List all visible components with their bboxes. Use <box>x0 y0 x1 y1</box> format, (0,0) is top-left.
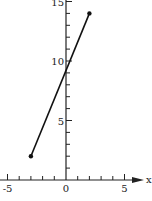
y-tick-label: 5 <box>58 116 64 127</box>
endpoint-dot <box>87 11 91 15</box>
tick-labels: -50551015x <box>3 0 152 194</box>
y-tick-label: 10 <box>51 56 64 67</box>
x-axis-arrow-icon <box>132 177 144 183</box>
data-line <box>31 13 90 156</box>
x-tick-label: 5 <box>121 183 127 194</box>
x-tick-label: -5 <box>3 183 13 194</box>
endpoint-dot <box>29 154 33 158</box>
line-segment-chart: -50551015x <box>0 0 152 201</box>
axes <box>0 0 144 183</box>
x-tick-label: 0 <box>63 183 69 194</box>
x-axis-label: x <box>146 174 152 185</box>
y-tick-label: 15 <box>51 0 64 8</box>
plot-area <box>29 11 92 158</box>
